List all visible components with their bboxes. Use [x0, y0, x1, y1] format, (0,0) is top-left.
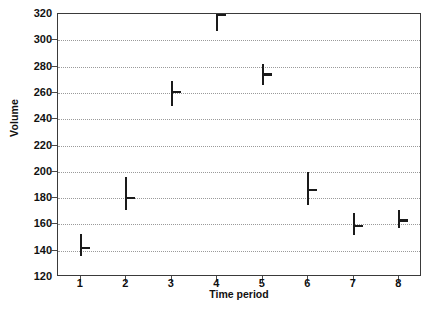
y-tick-label: 200: [18, 165, 52, 177]
plot-area: [57, 13, 421, 276]
mean-tick: [263, 73, 272, 75]
gridline: [58, 40, 420, 41]
gridline: [58, 251, 420, 252]
error-bar-whisker: [80, 234, 82, 256]
mean-tick: [126, 197, 135, 199]
y-tick-mark: [51, 171, 57, 172]
mean-tick: [172, 91, 181, 93]
y-tick-mark: [51, 39, 57, 40]
y-tick-label: 280: [18, 60, 52, 72]
gridline: [58, 198, 420, 199]
y-tick-label: 180: [18, 191, 52, 203]
y-tick-mark: [51, 223, 57, 224]
gridline: [58, 67, 420, 68]
y-tick-mark: [51, 250, 57, 251]
gridline: [58, 172, 420, 173]
error-bar-whisker: [125, 177, 127, 210]
gridline: [58, 119, 420, 120]
y-tick-mark: [51, 118, 57, 119]
y-tick-label: 300: [18, 33, 52, 45]
gridline: [58, 224, 420, 225]
mean-tick: [354, 225, 363, 227]
y-tick-mark: [51, 145, 57, 146]
gridline: [58, 146, 420, 147]
y-tick-label: 220: [18, 139, 52, 151]
error-bar-whisker: [171, 81, 173, 106]
mean-tick: [308, 189, 317, 191]
chart-figure: Volume 120140160180200220240260280300320…: [0, 0, 431, 314]
y-tick-label: 240: [18, 112, 52, 124]
gridline: [58, 93, 420, 94]
y-tick-label: 160: [18, 217, 52, 229]
mean-tick: [81, 247, 90, 249]
y-tick-mark: [51, 197, 57, 198]
x-axis-label: Time period: [57, 288, 421, 300]
y-tick-label: 140: [18, 244, 52, 256]
y-tick-mark: [51, 66, 57, 67]
y-tick-label: 320: [18, 7, 52, 19]
mean-tick: [217, 14, 226, 16]
mean-tick: [399, 219, 408, 221]
y-tick-mark: [51, 92, 57, 93]
y-tick-label: 260: [18, 86, 52, 98]
y-axis-tick-labels: 120140160180200220240260280300320: [16, 0, 52, 314]
y-tick-label: 120: [18, 270, 52, 282]
